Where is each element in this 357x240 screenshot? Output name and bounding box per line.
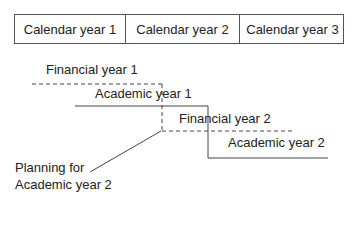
financial-year-2-label: Financial year 2 xyxy=(179,111,271,126)
academic-year-2-label: Academic year 2 xyxy=(228,135,325,150)
financial-year-1-label: Financial year 1 xyxy=(46,62,138,77)
planning-annotation-line-1: Planning for xyxy=(15,160,84,175)
planning-pointer-line xyxy=(90,131,161,172)
academic-year-1-label: Academic year 1 xyxy=(95,86,192,101)
planning-annotation-line-2: Academic year 2 xyxy=(15,177,112,192)
